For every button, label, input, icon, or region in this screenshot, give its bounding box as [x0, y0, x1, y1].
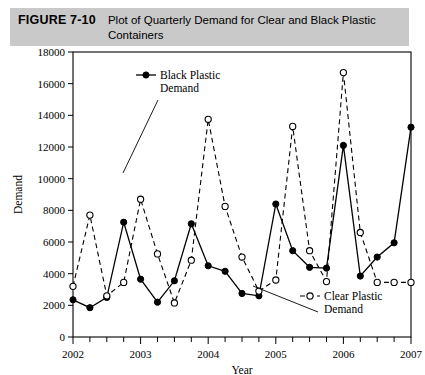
x-tick-label: 2004	[197, 348, 220, 360]
legend-clear-marker-icon	[307, 293, 313, 299]
data-point-marker	[104, 293, 110, 299]
data-point-marker	[323, 265, 329, 271]
x-tick-label: 2003	[130, 348, 153, 360]
data-point-marker	[121, 219, 127, 225]
data-point-marker	[408, 124, 414, 130]
x-tick-label: 2006	[332, 348, 355, 360]
data-point-marker	[239, 254, 245, 260]
legend-black-leader-line	[123, 100, 158, 173]
data-point-marker	[154, 251, 160, 257]
figure-title-text: Plot of Quarterly Demand for Clear and B…	[108, 13, 376, 43]
legend-clear-label-line2: Demand	[324, 303, 363, 315]
data-point-marker	[340, 69, 346, 75]
data-point-marker	[374, 279, 380, 285]
data-point-marker	[188, 257, 194, 263]
x-axis-ticks: 200220032004200520062007	[62, 337, 423, 360]
data-point-marker	[138, 196, 144, 202]
data-point-marker	[205, 263, 211, 269]
data-point-marker	[70, 283, 76, 289]
data-point-marker	[87, 212, 93, 218]
y-tick-label: 0	[60, 331, 66, 343]
data-point-marker	[290, 248, 296, 254]
figure-caption-bar: FIGURE 7-10 Plot of Quarterly Demand for…	[10, 8, 409, 46]
data-series-group	[70, 69, 414, 310]
y-tick-label: 10000	[38, 173, 66, 185]
data-point-marker	[273, 201, 279, 207]
x-tick-label: 2005	[265, 348, 288, 360]
data-point-marker	[290, 123, 296, 129]
data-point-marker	[340, 142, 346, 148]
x-tick-label: 2002	[62, 348, 84, 360]
y-tick-label: 4000	[43, 268, 66, 280]
data-point-marker	[222, 268, 228, 274]
data-point-marker	[391, 240, 397, 246]
data-point-marker	[374, 254, 380, 260]
data-point-marker	[87, 305, 93, 311]
data-point-marker	[205, 116, 211, 122]
data-point-marker	[357, 273, 363, 279]
data-point-marker	[307, 264, 313, 270]
data-point-marker	[171, 278, 177, 284]
y-tick-label: 14000	[38, 109, 66, 121]
y-tick-label: 2000	[43, 299, 66, 311]
y-tick-label: 16000	[38, 78, 66, 90]
figure-number-label: FIGURE 7-10	[18, 13, 96, 28]
legend-black-label-line1: Black Plastic	[160, 69, 220, 81]
data-point-marker	[307, 248, 313, 254]
x-axis-title: Year	[231, 364, 252, 375]
data-point-marker	[222, 203, 228, 209]
y-axis-title: Demand	[12, 175, 24, 214]
data-point-marker	[239, 290, 245, 296]
y-tick-label: 6000	[43, 236, 66, 248]
data-point-marker	[273, 277, 279, 283]
legend-black-label-line2: Demand	[160, 82, 199, 94]
series-line-path	[73, 73, 411, 303]
data-point-marker	[323, 278, 329, 284]
data-point-marker	[357, 229, 363, 235]
y-tick-label: 8000	[43, 204, 66, 216]
data-point-marker	[391, 279, 397, 285]
y-axis-ticks: 0200040006000800010000120001400016000180…	[38, 46, 74, 343]
y-tick-label: 12000	[38, 141, 66, 153]
figure-container: FIGURE 7-10 Plot of Quarterly Demand for…	[0, 0, 425, 375]
chart-plot-area: 0200040006000800010000120001400016000180…	[0, 46, 425, 375]
legend-clear-label-line1: Clear Plastic	[324, 290, 382, 302]
data-point-marker	[154, 299, 160, 305]
data-point-marker	[171, 300, 177, 306]
data-point-marker	[138, 276, 144, 282]
legend-clear-plastic: Clear Plastic Demand	[253, 286, 382, 315]
y-tick-label: 18000	[38, 46, 66, 58]
data-point-marker	[188, 221, 194, 227]
series-clear-plastic	[70, 69, 414, 306]
legend-black-marker-icon	[143, 72, 149, 78]
x-tick-label: 2007	[400, 348, 423, 360]
data-point-marker	[408, 279, 414, 285]
quarterly-demand-line-chart: 0200040006000800010000120001400016000180…	[0, 46, 425, 375]
data-point-marker	[121, 279, 127, 285]
data-point-marker	[70, 297, 76, 303]
